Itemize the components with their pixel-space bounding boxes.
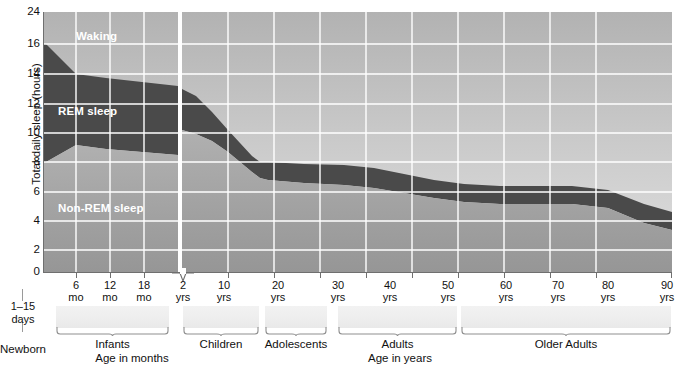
x-tick-value: 60 [486,279,526,291]
y-tick-12: 12 [6,98,40,110]
y-tick-10: 10 [6,127,40,139]
y-axis-line [43,12,44,273]
x-tick-mark-30yrs [366,273,367,278]
group-bracket-adults: Adults [338,306,457,334]
x-tick-label-2yrs: 2 yrs [163,279,203,303]
x-tick-unit: yrs [588,291,628,303]
x-tick-label-90yrs: 90 yrs [647,279,687,303]
x-tick-mark-90yrs [671,273,672,278]
group-band [265,306,327,328]
x-tick-mark-6mo [76,273,77,278]
x-tick-unit: yrs [428,291,468,303]
x-tick-value: 10 [204,279,244,291]
group-band [183,306,259,328]
x-tick-label-10yrs: 10 yrs [204,279,244,303]
x-tick-value: 2 [163,279,203,291]
x-tick-mark-50yrs [458,273,459,278]
x-axis-line [43,272,672,273]
group-band [56,306,169,328]
y-tick-24: 24 [6,6,40,18]
y-tick-6: 6 [6,186,40,198]
group-bracket-older-adults: Older Adults [461,306,671,334]
x-tick-label-60yrs: 60 yrs [486,279,526,303]
group-bracket-adolescents: Adolescents [265,306,327,334]
x-tick-value: 90 [647,279,687,291]
y-tick-8: 8 [6,156,40,168]
years-panel [182,12,672,272]
x-tick-unit: mo [124,291,164,303]
x-tick-value: 40 [370,279,410,291]
band-label-waking: Waking [76,30,117,42]
x-tick-unit: yrs [163,291,203,303]
y-tick-0: 0 [6,266,40,278]
x-tick-unit: yrs [258,291,298,303]
x-tick-label-80yrs: 80 yrs [588,279,628,303]
x-tick-mark-12mo [110,273,111,278]
axis-caption-months: Age in months [52,352,212,364]
group-bracket-infants: Infants [56,306,169,334]
x-tick-unit: yrs [647,291,687,303]
x-tick-value: 30 [318,279,358,291]
x-tick-mark-60yrs [504,273,505,278]
x-tick-unit: yrs [486,291,526,303]
band-label-rem: REM sleep [58,105,117,117]
x-tick-label-30yrs: 30 yrs [318,279,358,303]
newborn-age-range: 1–15 days [0,300,46,325]
x-tick-mark-40yrs [412,273,413,278]
newborn-range-line1: 1–15 [11,300,35,312]
group-label-older-adults: Older Adults [421,338,687,350]
y-axis-tick-labels: 24 16 14 12 10 8 6 4 2 0 [0,0,40,290]
x-tick-label-70yrs: 70 yrs [538,279,578,303]
band-label-nonrem: Non-REM sleep [58,202,144,214]
y-tick-14: 14 [6,68,40,80]
x-tick-mark-80yrs [596,273,597,278]
brace-icon [56,327,169,336]
y-tick-4: 4 [6,215,40,227]
x-tick-unit: yrs [538,291,578,303]
x-tick-value: 18 [124,279,164,291]
x-tick-mark-18mo [144,273,145,278]
axis-break-gap [178,12,182,272]
months-panel [44,12,178,272]
y-tick-2: 2 [6,244,40,256]
x-tick-mark-20yrs [320,273,321,278]
brace-icon [461,327,671,336]
brace-icon [265,327,327,336]
y-tick-16: 16 [6,38,40,50]
brace-icon [183,327,259,336]
x-tick-unit: yrs [318,291,358,303]
x-tick-value: 20 [258,279,298,291]
brace-icon [338,327,457,336]
x-tick-mark-10yrs [274,273,275,278]
group-band [461,306,671,328]
group-band [338,306,457,328]
sleep-stages-area-chart [44,12,672,272]
x-tick-unit: yrs [370,291,410,303]
x-tick-value: 50 [428,279,468,291]
newborn-range-line2: days [11,313,34,325]
x-tick-label-20yrs: 20 yrs [258,279,298,303]
x-tick-label-18mo: 18 mo [124,279,164,303]
x-tick-label-50yrs: 50 yrs [428,279,468,303]
x-tick-value: 80 [588,279,628,291]
chart-plot-area: Waking REM sleep Non-REM sleep [44,12,672,272]
axis-caption-years: Age in years [320,352,480,364]
x-tick-mark-70yrs [550,273,551,278]
x-tick-value: 70 [538,279,578,291]
x-tick-label-40yrs: 40 yrs [370,279,410,303]
group-bracket-children: Children [183,306,259,334]
x-tick-mark-2yrs [228,273,229,278]
x-tick-unit: yrs [204,291,244,303]
